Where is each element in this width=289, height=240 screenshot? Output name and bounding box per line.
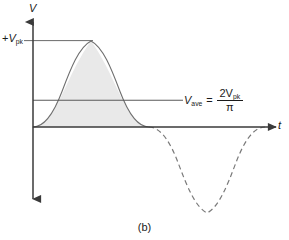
peak-subscript: pk <box>16 38 23 45</box>
curve-negative-half-cycle <box>149 127 265 213</box>
x-axis-label: t <box>278 120 281 131</box>
peak-voltage-label: +Vpk <box>2 33 23 44</box>
waveform-plot <box>0 0 289 240</box>
equation-numerator: 2Vpk <box>217 88 242 100</box>
peak-symbol: V <box>8 32 15 44</box>
equation-denominator: π <box>224 101 236 113</box>
average-voltage-equation: Vave = 2Vpk π <box>184 88 243 113</box>
figure-container: V t +Vpk Vave = 2Vpk π (b) <box>0 0 289 240</box>
y-axis-label: V <box>29 3 36 14</box>
equation-operator: = <box>205 95 213 106</box>
figure-caption: (b) <box>0 222 289 233</box>
equation-left-side: Vave <box>184 95 202 106</box>
equation-fraction: 2Vpk π <box>217 88 243 113</box>
